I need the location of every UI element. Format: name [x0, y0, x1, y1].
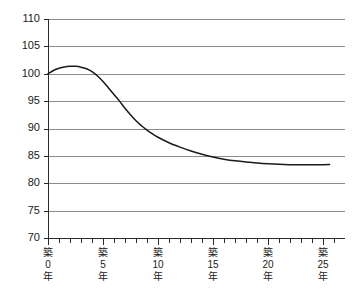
x-tick-label-25: 築25年 [317, 246, 329, 282]
y-tick-label-90: 90 [28, 121, 40, 133]
x-tick-label-char: 年 [98, 270, 108, 282]
depreciation-line-chart: 110105100959085807570 築0年築5年築10年築15年築20年… [0, 0, 357, 295]
x-tick-label-char: 築 [98, 246, 108, 258]
axes [44, 19, 345, 239]
x-tick-label-char: 20 [262, 259, 274, 270]
y-axis-tick-labels: 110105100959085807570 [22, 12, 40, 243]
y-tick-label-70: 70 [28, 231, 40, 243]
y-tick-label-100: 100 [22, 67, 40, 79]
x-tick-label-char: 年 [318, 270, 328, 282]
x-tick-label-char: 築 [153, 246, 163, 258]
y-tick-label-75: 75 [28, 204, 40, 216]
x-tick-label-15: 築15年 [207, 246, 219, 282]
chart-container: 110105100959085807570 築0年築5年築10年築15年築20年… [0, 0, 357, 295]
x-tick-label-20: 築20年 [262, 246, 274, 282]
gridlines [48, 20, 345, 239]
x-tick-label-char: 築 [43, 246, 53, 258]
x-tick-label-char: 築 [263, 246, 273, 258]
x-tick-label-10: 築10年 [152, 246, 164, 282]
x-tick-label-5: 築5年 [98, 246, 108, 282]
y-tick-label-105: 105 [22, 39, 40, 51]
x-tick-label-char: 年 [208, 270, 218, 282]
x-tick-label-0: 築0年 [43, 246, 53, 282]
y-tick-label-95: 95 [28, 94, 40, 106]
x-tick-label-char: 10 [152, 259, 164, 270]
x-tick-label-char: 25 [317, 259, 329, 270]
y-tick-label-110: 110 [22, 12, 40, 24]
y-tick-label-80: 80 [28, 176, 40, 188]
x-tick-label-char: 年 [263, 270, 273, 282]
x-axis-tick-labels: 築0年築5年築10年築15年築20年築25年 [43, 246, 329, 282]
x-tick-label-char: 年 [153, 270, 163, 282]
x-tick-label-char: 15 [207, 259, 219, 270]
x-tick-label-char: 築 [208, 246, 218, 258]
data-series [48, 66, 330, 164]
x-tick-label-char: 0 [45, 259, 51, 270]
x-tick-label-char: 築 [318, 246, 328, 258]
x-tick-label-char: 年 [43, 270, 53, 282]
series-line-0 [48, 66, 330, 164]
y-tick-label-85: 85 [28, 149, 40, 161]
x-tick-label-char: 5 [100, 259, 106, 270]
